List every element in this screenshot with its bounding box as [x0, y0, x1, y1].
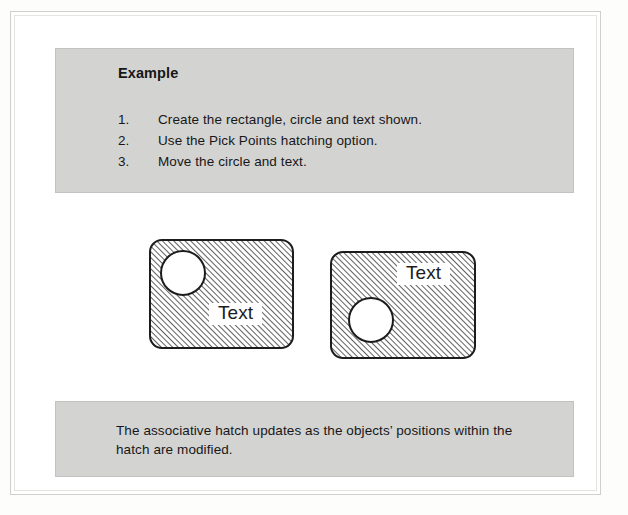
- step-number: 2.: [118, 133, 158, 148]
- step-text: Move the circle and text.: [158, 154, 307, 169]
- example-heading: Example: [118, 65, 178, 81]
- step-number: 1.: [118, 112, 158, 127]
- caption-text: The associative hatch updates as the obj…: [116, 421, 546, 459]
- list-item: 3. Move the circle and text.: [118, 154, 558, 175]
- page-canvas: Example 1. Create the rectangle, circle …: [0, 0, 628, 515]
- step-text: Use the Pick Points hatching option.: [158, 133, 378, 148]
- step-text: Create the rectangle, circle and text sh…: [158, 112, 422, 127]
- list-item: 2. Use the Pick Points hatching option.: [118, 133, 558, 154]
- instructions-callout: Example 1. Create the rectangle, circle …: [55, 48, 574, 193]
- caption-callout: The associative hatch updates as the obj…: [55, 401, 574, 477]
- step-number: 3.: [118, 154, 158, 169]
- list-item: 1. Create the rectangle, circle and text…: [118, 112, 558, 133]
- steps-list: 1. Create the rectangle, circle and text…: [118, 112, 558, 175]
